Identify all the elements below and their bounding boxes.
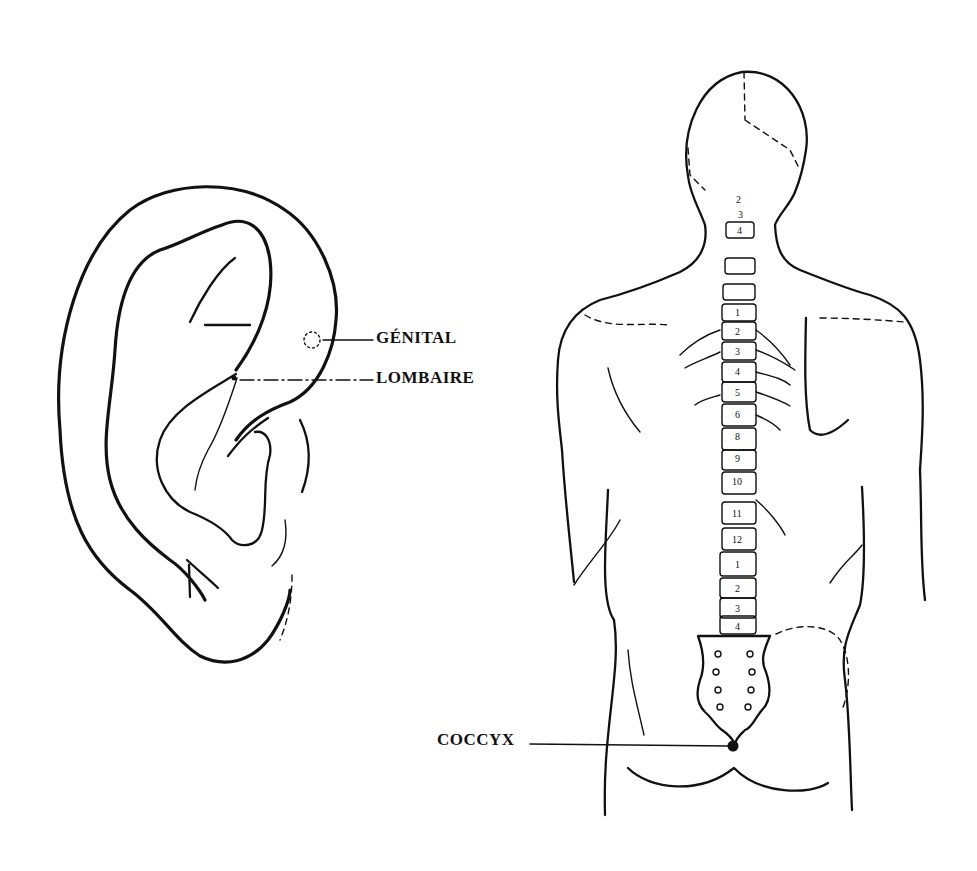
ear-concha <box>157 374 270 545</box>
label-coccyx: COCCYX <box>437 730 515 750</box>
svg-text:4: 4 <box>737 225 742 236</box>
svg-text:12: 12 <box>732 534 742 545</box>
ear-antihelix <box>106 221 271 600</box>
torso-right <box>844 487 864 810</box>
svg-text:2: 2 <box>735 583 740 594</box>
sacral-foramina <box>713 651 755 710</box>
svg-text:3: 3 <box>738 209 743 220</box>
spine <box>680 222 795 634</box>
svg-text:3: 3 <box>735 346 740 357</box>
ear-drawing <box>59 187 373 662</box>
coccyx-leader-line <box>530 744 728 746</box>
genital-point-marker <box>304 332 320 348</box>
label-genital: GÉNITAL <box>376 328 457 348</box>
label-lombaire: LOMBAIRE <box>376 368 474 388</box>
svg-text:1: 1 <box>735 307 740 318</box>
svg-text:3: 3 <box>735 603 740 614</box>
sacrum <box>698 636 770 744</box>
torso-left <box>605 490 616 815</box>
svg-text:9: 9 <box>735 453 740 464</box>
back-drawing: 2 3 4 1 2 3 4 5 6 8 9 10 11 12 1 2 3 4 <box>530 72 925 815</box>
gluteal-fold <box>628 768 828 791</box>
vertebra-numbers: 2 3 4 1 2 3 4 5 6 8 9 10 11 12 1 2 3 4 <box>732 194 743 632</box>
lombaire-point-marker <box>232 376 237 381</box>
svg-text:1: 1 <box>735 559 740 570</box>
svg-text:6: 6 <box>735 409 740 420</box>
svg-text:4: 4 <box>735 366 740 377</box>
svg-text:2: 2 <box>735 326 740 337</box>
svg-text:10: 10 <box>732 476 742 487</box>
svg-text:11: 11 <box>732 508 742 519</box>
svg-text:2: 2 <box>736 194 741 205</box>
svg-text:8: 8 <box>735 431 740 442</box>
svg-text:4: 4 <box>735 621 740 632</box>
coccyx-point-marker <box>728 741 739 752</box>
svg-text:5: 5 <box>735 387 740 398</box>
